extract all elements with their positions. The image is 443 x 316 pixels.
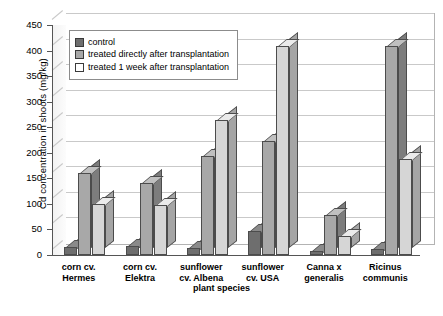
bar-front-face [248,231,261,255]
bar-front-face [276,46,289,255]
bar-front-face [154,205,167,255]
bar [126,246,139,255]
x-axis-category-label-line: cv. USA [232,273,293,284]
bar [262,141,275,255]
y-tick-label: 400 [12,46,42,56]
gridline [66,141,434,142]
legend-color-swatch [75,50,84,59]
x-axis-category-label-line: cv. Albena [171,273,232,284]
bar-front-face [338,236,351,255]
bar-front-face [262,141,275,255]
bar-front-face [64,247,77,255]
bar [201,156,214,255]
bar-front-face [399,159,412,255]
x-axis-category-label: corn cv.Elektra [109,262,170,283]
bar [276,46,289,255]
y-axis-line [52,25,53,255]
gridline [66,13,434,14]
bar-front-face [140,183,153,255]
bar [338,236,351,255]
legend-item: treated 1 week after transplantation [75,62,229,73]
bar-front-face [310,251,323,255]
y-tick-label: 50 [12,224,42,234]
x-axis-category-label-line: corn cv. [109,262,170,273]
y-tick-label: 150 [12,173,42,183]
bar [78,173,91,255]
bar-front-face [78,173,91,255]
bar [371,249,384,255]
x-axis-category-label-line: communis [355,273,416,284]
legend-item: control [75,37,229,48]
bar [215,120,228,255]
x-axis-title: plant species [0,283,443,293]
bar-side-face [412,145,421,248]
bar [154,205,167,255]
chart-floor [0,0,382,12]
bar-side-face [289,32,298,248]
chart-legend: controltreated directly after transplant… [69,30,238,80]
bar-front-face [126,246,139,255]
gridline [66,90,434,91]
legend-label: control [88,37,115,48]
y-tick-label: 200 [12,148,42,158]
y-tick-label: 300 [12,97,42,107]
bar-front-face [201,156,214,255]
y-tick-label: 450 [12,20,42,30]
bar [187,248,200,255]
x-axis-category-label-line: Ricinus [355,262,416,273]
y-tick-label: 100 [12,199,42,209]
gridline [66,192,434,193]
bar-front-face [324,215,337,255]
legend-label: treated directly after transplantation [88,49,229,60]
legend-color-swatch [75,38,84,47]
legend-color-swatch [75,63,84,72]
legend-item: treated directly after transplantation [75,49,229,60]
x-axis-category-label-line: Elektra [109,273,170,284]
bar [385,46,398,255]
bar-side-face [228,106,237,248]
bar-chart: Cd concentration in shoots (mg/kg) 05010… [0,0,443,316]
bar-front-face [385,46,398,255]
y-tick-label: 0 [12,250,42,260]
x-axis-line [52,255,420,256]
y-tick-label: 350 [12,71,42,81]
bar [140,183,153,255]
bar-front-face [92,204,105,255]
bar [248,231,261,255]
bar-front-face [215,120,228,255]
bar [92,204,105,255]
bar [324,215,337,255]
gridline [66,166,434,167]
x-axis-category-label: corn cv.Hermes [48,262,109,283]
x-axis-category-label: sunflowercv. USA [232,262,293,283]
gridline [66,217,434,218]
x-axis-category-label-line: sunflower [171,262,232,273]
x-axis-category-label: Canna xgeneralis [293,262,354,283]
x-axis-category-label: sunflowercv. Albena [171,262,232,283]
bar-front-face [371,249,384,255]
x-axis-category-label-line: generalis [293,273,354,284]
legend-label: treated 1 week after transplantation [88,62,229,73]
x-axis-category-label-line: sunflower [232,262,293,273]
x-axis-category-label-line: Hermes [48,273,109,284]
bar [310,251,323,255]
bar [64,247,77,255]
bar-front-face [187,248,200,255]
gridline [66,115,434,116]
bar [399,159,412,255]
y-tick-label: 250 [12,122,42,132]
x-axis-category-label: Ricinuscommunis [355,262,416,283]
x-axis-category-label-line: Canna x [293,262,354,273]
x-axis-category-label-line: corn cv. [48,262,109,273]
